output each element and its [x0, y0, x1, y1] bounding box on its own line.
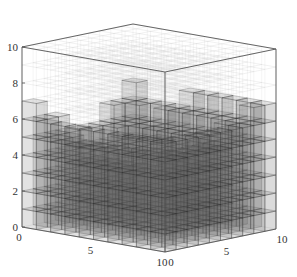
z-tick-label: 4 [13, 149, 19, 161]
x-tick-label: 0 [16, 231, 22, 243]
z-tick-label: 6 [13, 113, 19, 125]
voxel-plot: 024681005100510 [0, 0, 297, 277]
y-tick-label: 0 [168, 256, 174, 268]
y-tick-label: 10 [277, 233, 289, 245]
x-tick-label: 5 [88, 244, 94, 256]
z-tick-label: 10 [7, 41, 19, 53]
z-tick-label: 8 [13, 77, 19, 89]
x-tick-label: 10 [157, 256, 169, 268]
z-tick-label: 2 [13, 185, 19, 197]
y-tick-label: 5 [224, 245, 230, 257]
